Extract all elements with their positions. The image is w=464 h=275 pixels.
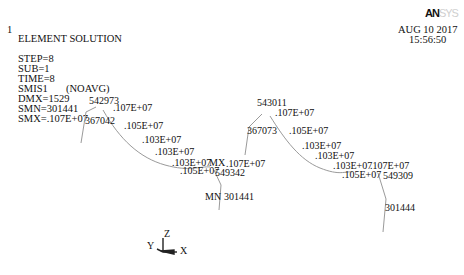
z-axis-label: Z xyxy=(164,229,170,239)
triad-arrows-icon xyxy=(0,0,464,275)
x-axis-label: X xyxy=(180,246,187,256)
y-axis-label: Y xyxy=(147,241,154,251)
